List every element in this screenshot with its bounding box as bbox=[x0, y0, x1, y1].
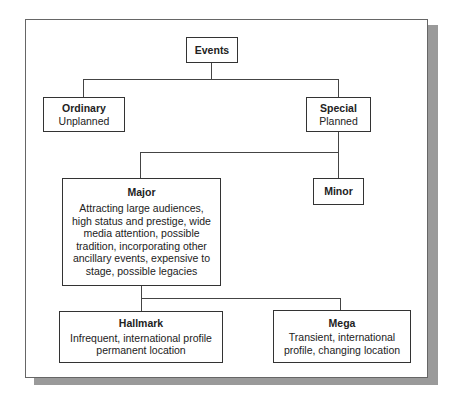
connector bbox=[211, 62, 212, 80]
node-title: Events bbox=[187, 44, 237, 57]
node-ordinary: Ordinary Unplanned bbox=[43, 97, 125, 132]
node-desc: Unplanned bbox=[44, 115, 124, 128]
node-desc: Transient, international profile, changi… bbox=[280, 331, 404, 356]
connector bbox=[83, 79, 84, 97]
connector bbox=[141, 298, 341, 299]
connector bbox=[140, 152, 141, 178]
node-title: Ordinary bbox=[44, 102, 124, 115]
node-hallmark: Hallmark Infrequent, international profi… bbox=[59, 311, 223, 363]
node-title: Minor bbox=[314, 185, 363, 198]
node-major: Major Attracting large audiences, high s… bbox=[62, 178, 221, 286]
node-special: Special Planned bbox=[306, 97, 371, 132]
connector bbox=[140, 152, 339, 153]
connector bbox=[338, 131, 339, 178]
node-desc: Planned bbox=[307, 115, 370, 128]
node-title: Hallmark bbox=[64, 317, 218, 330]
connector bbox=[83, 79, 339, 80]
node-title: Major bbox=[69, 186, 214, 199]
connector bbox=[340, 298, 341, 310]
node-desc: Attracting large audiences, high status … bbox=[69, 202, 214, 278]
node-minor: Minor bbox=[313, 178, 364, 205]
connector bbox=[338, 79, 339, 97]
node-mega: Mega Transient, international profile, c… bbox=[273, 310, 411, 363]
node-title: Special bbox=[307, 102, 370, 115]
node-events: Events bbox=[186, 37, 238, 63]
node-title: Mega bbox=[280, 317, 404, 330]
node-desc: Infrequent, international profile perman… bbox=[64, 332, 218, 357]
